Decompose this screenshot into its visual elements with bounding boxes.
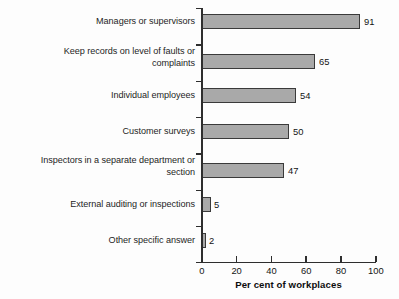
x-axis-tick: [271, 256, 273, 262]
bar: [202, 124, 289, 139]
category-label-line: External auditing or inspections: [9, 199, 195, 210]
y-axis-line: [201, 8, 203, 262]
chart-row: Individual employees 54: [0, 81, 399, 117]
y-axis-tick: [196, 190, 202, 191]
x-axis-tick: [201, 256, 203, 262]
bar: [202, 14, 360, 29]
x-axis-tick-label: 80: [326, 265, 356, 276]
x-axis-tick-label: 0: [187, 265, 217, 276]
x-axis-tick: [340, 256, 342, 262]
category-label: Other specific answer: [9, 235, 195, 246]
x-axis-tick: [236, 256, 238, 262]
bar-value-label: 50: [293, 124, 303, 139]
bar: [202, 88, 296, 103]
category-label-line: Other specific answer: [9, 235, 195, 246]
x-axis-tick-label: 20: [222, 265, 252, 276]
bar-value-label: 54: [300, 88, 310, 103]
category-label-line: Customer surveys: [9, 126, 195, 137]
bar-value-label: 47: [288, 163, 298, 178]
x-axis-tick-label: 40: [256, 265, 286, 276]
x-axis-tick: [305, 256, 307, 262]
category-label-line: Individual employees: [9, 90, 195, 101]
category-label: Customer surveys: [9, 126, 195, 137]
chart-row: Managers or supervisors 91: [0, 8, 399, 44]
chart-row: Other specific answer 2: [0, 226, 399, 262]
bar-chart: Managers or supervisors 91 Keep records …: [0, 0, 399, 299]
bar: [202, 197, 211, 212]
y-axis-tick: [196, 8, 202, 9]
bar: [202, 54, 315, 69]
category-label: Managers or supervisors: [9, 16, 195, 27]
category-label: Individual employees: [9, 90, 195, 101]
category-label: Inspectors in a separate department or s…: [9, 155, 195, 178]
bar-value-label: 2: [209, 233, 214, 248]
category-label-line: section: [9, 167, 195, 178]
bar-value-label: 91: [364, 14, 374, 29]
x-axis-tick-label: 60: [291, 265, 321, 276]
y-axis-tick: [196, 226, 202, 227]
y-axis-tick: [196, 44, 202, 45]
chart-row: Inspectors in a separate department or s…: [0, 153, 399, 189]
bar-value-label: 5: [214, 197, 219, 212]
category-label-line: complaints: [9, 58, 195, 69]
bar-value-label: 65: [319, 54, 329, 69]
category-label-line: Managers or supervisors: [9, 16, 195, 27]
category-label: Keep records on level of faults or compl…: [9, 46, 195, 69]
chart-row: External auditing or inspections 5: [0, 190, 399, 226]
y-axis-tick: [196, 117, 202, 118]
chart-row: Customer surveys 50: [0, 117, 399, 153]
x-axis-tick-label: 100: [361, 265, 391, 276]
category-label: External auditing or inspections: [9, 199, 195, 210]
x-axis-line: [201, 262, 376, 264]
x-axis-tick: [375, 256, 377, 262]
y-axis-tick: [196, 153, 202, 154]
chart-row: Keep records on level of faults or compl…: [0, 44, 399, 80]
category-label-line: Inspectors in a separate department or: [9, 155, 195, 166]
x-axis-title: Per cent of workplaces: [201, 279, 376, 290]
bar: [202, 163, 284, 178]
y-axis-tick: [196, 81, 202, 82]
category-label-line: Keep records on level of faults or: [9, 46, 195, 57]
